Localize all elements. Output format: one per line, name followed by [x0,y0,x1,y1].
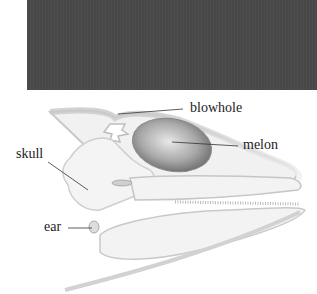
blowhole-label: blowhole [190,101,242,115]
melon-label: melon [243,138,278,152]
photo-region [27,0,317,90]
ear-label: ear [44,220,61,234]
dolphin-head-diagram: blowhole melon skull ear [0,90,317,294]
dolphin-head-illustration [0,90,317,294]
skull-label: skull [16,147,43,161]
